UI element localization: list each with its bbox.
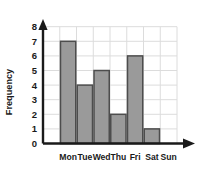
bar-rect-tue xyxy=(77,85,92,143)
bar-rect-fri xyxy=(128,56,143,144)
bar xyxy=(128,56,143,144)
y-tick-label: 7 xyxy=(32,36,37,47)
bar xyxy=(61,41,76,143)
x-axis-tick-labels: MonTueWedThuFriSatSun xyxy=(59,152,176,162)
bar xyxy=(77,85,92,143)
bar xyxy=(144,129,159,144)
y-tick-label: 2 xyxy=(32,109,37,120)
y-tick-label: 0 xyxy=(32,138,37,149)
y-tick-label: 5 xyxy=(32,65,38,76)
y-tick-label: 8 xyxy=(32,21,37,32)
y-tick-label: 1 xyxy=(32,123,38,134)
bar-rect-wed xyxy=(94,71,109,144)
bar xyxy=(94,71,109,144)
bar-chart: 012345678 MonTueWedThuFriSatSun Frequenc… xyxy=(0,0,202,183)
bar xyxy=(111,114,126,143)
x-tick-label-mon: Mon xyxy=(59,152,77,162)
bar-rect-sat xyxy=(144,129,159,144)
x-tick-label-fri: Fri xyxy=(130,152,141,162)
bar-rect-mon xyxy=(61,41,76,143)
y-axis-title: Frequency xyxy=(4,68,14,115)
chart-canvas: 012345678 MonTueWedThuFriSatSun Frequenc… xyxy=(0,0,202,183)
bar-rect-thu xyxy=(111,114,126,143)
y-tick-label: 3 xyxy=(32,94,37,105)
y-tick-label: 4 xyxy=(32,80,38,91)
x-tick-label-wed: Wed xyxy=(93,152,111,162)
x-tick-label-sun: Sun xyxy=(161,152,177,162)
x-tick-label-tue: Tue xyxy=(78,152,93,162)
y-axis-arrow-icon xyxy=(38,19,47,30)
x-tick-label-sat: Sat xyxy=(145,152,159,162)
y-tick-label: 6 xyxy=(32,50,37,61)
x-tick-label-thu: Thu xyxy=(111,152,127,162)
y-axis-tick-labels: 012345678 xyxy=(32,21,38,149)
x-axis-arrow-icon xyxy=(183,139,195,149)
